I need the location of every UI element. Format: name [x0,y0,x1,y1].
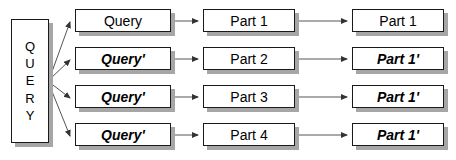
part-node-row1[interactable]: Part 1 [203,9,295,32]
query-node-row1[interactable]: Query [75,9,171,32]
diagram-canvas: Q U E R Y Query Query' Query' Query' Par… [0,0,456,160]
arrow-query-to-row3 [49,82,70,98]
arrow-query-to-row2 [49,60,70,80]
source-letter-r: R [25,90,34,107]
source-letter-q: Q [25,38,35,55]
output-node-row1[interactable]: Part 1 [352,9,444,32]
source-letter-u: U [25,55,34,72]
output-node-row4[interactable]: Part 1' [352,123,444,146]
arrow-query-to-row4 [49,84,70,136]
source-letter-e: E [26,72,35,89]
query-node-row3[interactable]: Query' [75,85,171,108]
part-node-row2[interactable]: Part 2 [203,47,295,70]
arrow-query-to-row1 [49,22,70,80]
output-node-row3[interactable]: Part 1' [352,85,444,108]
source-query-box[interactable]: Q U E R Y [11,19,49,143]
output-node-row2[interactable]: Part 1' [352,47,444,70]
part-node-row3[interactable]: Part 3 [203,85,295,108]
query-node-row2[interactable]: Query' [75,47,171,70]
source-letter-y: Y [26,107,35,124]
query-node-row4[interactable]: Query' [75,123,171,146]
part-node-row4[interactable]: Part 4 [203,123,295,146]
